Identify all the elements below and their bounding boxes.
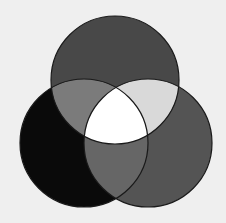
venn-diagram: [0, 0, 226, 223]
